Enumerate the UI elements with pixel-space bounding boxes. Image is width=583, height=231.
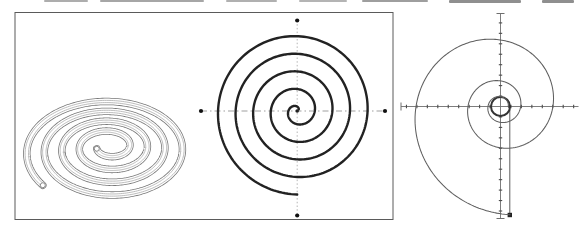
axis-end-dot bbox=[199, 109, 203, 113]
right-logarithmic-spiral bbox=[401, 14, 579, 219]
page-canvas bbox=[0, 0, 583, 231]
spiral-origin-dot bbox=[295, 109, 299, 113]
logarithmic-spiral-curve bbox=[415, 39, 553, 215]
axis-end-dot bbox=[295, 213, 299, 217]
coil-endcap-inner bbox=[94, 146, 99, 151]
axis-end-dot bbox=[295, 18, 299, 22]
spiral-figures-svg bbox=[0, 0, 583, 231]
coil-endcap-outer bbox=[40, 183, 45, 188]
axis-end-dot bbox=[383, 109, 387, 113]
